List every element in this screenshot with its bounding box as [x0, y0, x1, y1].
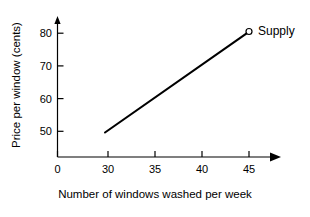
x-tick-label-45: 45 — [243, 164, 255, 175]
y-axis — [54, 16, 60, 157]
supply-curve-chart: 50 60 70 80 0 30 35 40 45 Number of wind… — [0, 0, 310, 217]
x-axis-ticks — [58, 151, 250, 157]
y-tick-label-50: 50 — [40, 126, 52, 137]
y-tick-label-60: 60 — [40, 93, 52, 104]
x-tick-label-40: 40 — [196, 164, 208, 175]
supply-endpoint-marker — [246, 29, 252, 35]
y-axis-ticks — [58, 33, 64, 131]
x-axis — [58, 153, 282, 162]
x-tick-label-30: 30 — [102, 164, 114, 175]
supply-series-label: Supply — [258, 24, 295, 38]
x-tick-label-35: 35 — [149, 164, 161, 175]
y-tick-label-80: 80 — [40, 28, 52, 39]
y-tick-label-70: 70 — [40, 60, 52, 71]
supply-line — [105, 33, 247, 132]
y-axis-title: Price per window (cents) — [10, 22, 22, 148]
x-axis-title: Number of windows washed per week — [58, 188, 252, 200]
x-tick-label-0: 0 — [54, 164, 60, 175]
